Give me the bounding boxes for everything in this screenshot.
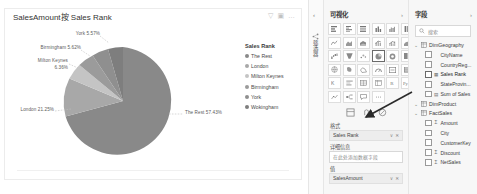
expand-visualizations-icon[interactable]: › [401, 12, 403, 18]
legend-color-swatch-icon [245, 105, 249, 109]
stacked-area-chart-icon[interactable] [357, 37, 370, 49]
field-checkbox[interactable] [425, 130, 432, 137]
visualizations-pane[interactable]: 可视化 › [323, 0, 408, 194]
clustered-bar-chart-icon[interactable] [343, 23, 356, 35]
chevron-down-icon[interactable]: ⌄ [414, 42, 418, 48]
leader-line-milton-keynes [69, 64, 78, 68]
legend-item-london[interactable]: London [245, 63, 301, 69]
legend-item-label: York [251, 94, 261, 100]
field-checkbox[interactable] [425, 51, 432, 58]
hundred-stacked-bar-icon[interactable] [357, 23, 370, 35]
field-checkbox[interactable] [425, 81, 432, 88]
table-visual-icon[interactable] [357, 77, 370, 89]
clustered-column-chart-icon[interactable] [386, 23, 399, 35]
field-checkbox[interactable] [425, 120, 432, 127]
field-row-city[interactable]: City [425, 130, 477, 137]
filled-map-icon[interactable] [343, 64, 356, 76]
line-chart-icon[interactable] [328, 37, 341, 49]
slicer-icon[interactable] [343, 77, 356, 89]
more-options-icon[interactable]: … [288, 12, 295, 19]
kpi-visual-icon[interactable]: K [328, 77, 341, 89]
legend-item-york[interactable]: York [245, 94, 301, 100]
legend-item-the-rest[interactable]: The Rest [245, 53, 301, 59]
fields-tab-icon[interactable] [345, 108, 355, 118]
field-checkbox[interactable] [425, 139, 432, 146]
filters-rail[interactable]: ‹ 筛选器 [308, 0, 323, 194]
stacked-bar-chart-icon[interactable] [328, 23, 341, 35]
field-checkbox[interactable] [425, 159, 432, 166]
stacked-column-chart-icon[interactable] [372, 23, 385, 35]
field-checkbox[interactable] [425, 149, 432, 156]
legend[interactable]: Sales Rank The Rest London Milton Keynes… [245, 43, 301, 114]
fields-tree[interactable]: ⌄ DimGeography CityName CountryReg... ▦ … [409, 37, 477, 166]
remove-field-icon[interactable]: ✕ [395, 133, 399, 138]
legend-item-wokingham[interactable]: Wokingham [245, 104, 301, 110]
gauge-chart-icon[interactable] [372, 64, 385, 76]
fields-pane[interactable]: 字段 › 搜索 ⌄ DimGeography CityName CountryR… [408, 0, 477, 194]
details-drop-zone[interactable]: 在此处添加数据字段 [329, 151, 403, 163]
report-canvas[interactable]: SalesAmount按 Sales Rank ▽ ▣ … [0, 0, 308, 194]
svg-text:R: R [390, 81, 394, 86]
key-influencers-icon[interactable] [328, 91, 341, 103]
more-visuals-icon[interactable] [372, 91, 385, 103]
funnel-chart-icon[interactable] [343, 50, 356, 62]
matrix-visual-icon[interactable] [372, 77, 385, 89]
pane-tabs[interactable] [324, 103, 408, 120]
decomposition-tree-icon[interactable] [343, 91, 356, 103]
field-row-amount[interactable]: Σ Amount [425, 120, 477, 127]
donut-chart-icon[interactable] [386, 50, 399, 62]
filters-pane-label[interactable]: 筛选器 [312, 40, 320, 56]
line-clustered-column-chart-icon[interactable] [386, 37, 399, 49]
filter-icon[interactable]: ▽ [268, 12, 273, 19]
field-type-icon: ▤ [434, 92, 438, 97]
field-row-sum-of-sales[interactable]: ▤ Sum of Sales [425, 91, 477, 98]
table-icon [421, 110, 427, 116]
field-menu-icon[interactable]: ∨ [390, 133, 393, 138]
chevron-down-icon[interactable]: ⌄ [414, 101, 418, 107]
pin-icon[interactable]: ▣ [277, 12, 284, 19]
legend-title: Sales Rank [245, 43, 301, 49]
field-type-icon: Σ [434, 150, 438, 155]
shape-map-icon[interactable] [357, 64, 370, 76]
field-row-customerkey[interactable]: CustomerKey [425, 139, 477, 146]
format-tab-icon[interactable] [361, 108, 371, 118]
legend-color-swatch-icon [245, 95, 249, 99]
field-checkbox[interactable] [425, 61, 432, 68]
card-visual-icon[interactable] [386, 64, 399, 76]
expand-fields-icon[interactable]: › [470, 12, 472, 18]
values-field-well[interactable]: SalesAmount ∨ ✕ [329, 173, 403, 184]
legend-field-well[interactable]: Sales Rank ∨ ✕ [329, 130, 403, 141]
waterfall-chart-icon[interactable] [328, 50, 341, 62]
field-menu-icon[interactable]: ∨ [390, 176, 393, 181]
line-stacked-column-chart-icon[interactable] [372, 37, 385, 49]
scatter-chart-icon[interactable] [357, 50, 370, 62]
field-row-stateprovince[interactable]: StateProvin... [425, 81, 477, 88]
qna-visual-icon[interactable] [357, 91, 370, 103]
search-input[interactable]: 搜索 [415, 25, 471, 37]
table-row-dimgeography[interactable]: ⌄ DimGeography [414, 42, 477, 48]
table-row-factsales[interactable]: ⌄ FactSales [414, 110, 477, 116]
pie-chart-icon[interactable] [372, 50, 385, 62]
field-checkbox[interactable] [425, 71, 432, 78]
visual-header-icons[interactable]: ▽ ▣ … [268, 12, 295, 19]
field-checkbox[interactable] [425, 91, 432, 98]
field-row-sales-rank[interactable]: ▦ Sales Rank [425, 71, 477, 78]
table-row-dimproduct[interactable]: ⌄ DimProduct [414, 101, 477, 107]
field-row-netsales[interactable]: Σ NetSales [425, 159, 477, 166]
analytics-tab-icon[interactable] [377, 108, 387, 118]
collapse-filters-icon[interactable]: ‹ [313, 12, 315, 18]
pie-chart-visual[interactable]: SalesAmount按 Sales Rank ▽ ▣ … [4, 8, 302, 180]
visual-type-grid[interactable]: K R Py [324, 23, 408, 103]
fields-pane-title: 字段 [415, 10, 427, 19]
area-chart-icon[interactable] [343, 37, 356, 49]
map-visual-icon[interactable] [328, 64, 341, 76]
pie-plot-area[interactable]: York 5.57% Birmingham 5.62% Milton Keyne… [5, 23, 241, 173]
legend-item-milton-keynes[interactable]: Milton Keynes [245, 73, 301, 79]
field-row-discount[interactable]: Σ Discount [425, 149, 477, 156]
field-row-cityname[interactable]: CityName [425, 51, 477, 58]
r-script-visual-icon[interactable]: R [386, 77, 399, 89]
field-row-countryregion[interactable]: CountryReg... [425, 61, 477, 68]
chevron-down-icon[interactable]: ⌄ [414, 110, 418, 116]
legend-item-birmingham[interactable]: Birmingham [245, 84, 301, 90]
remove-field-icon[interactable]: ✕ [395, 176, 399, 181]
